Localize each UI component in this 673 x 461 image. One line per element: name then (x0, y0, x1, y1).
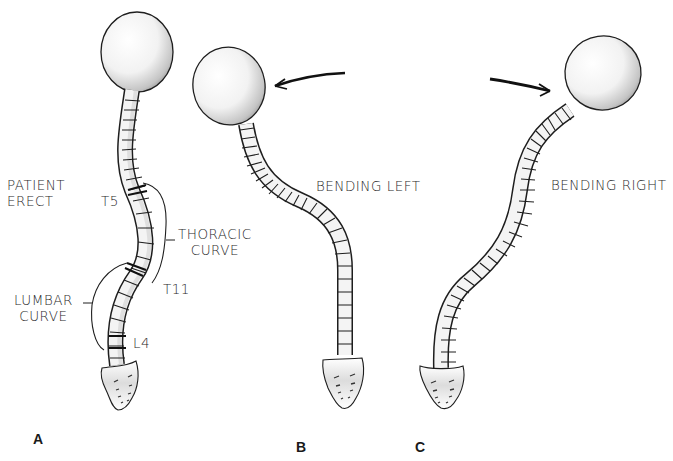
sacrum-c (420, 366, 464, 409)
head-a (101, 12, 173, 92)
label-thoracic-curve: THORACIC CURVE (178, 226, 252, 258)
label-bending-right: BENDING RIGHT (551, 177, 666, 193)
label-thoracic-curve-word: CURVE (178, 242, 252, 258)
label-t11: T11 (163, 281, 190, 297)
label-patient: PATIENT (7, 177, 65, 193)
label-lumbar-curve: LUMBAR CURVE (14, 292, 73, 324)
scoliosis-diagram (0, 0, 673, 461)
head-b (187, 41, 271, 130)
sacrum-a (101, 361, 138, 410)
panel-a-spine (83, 12, 175, 410)
label-lumbar-curve-word: CURVE (14, 308, 73, 324)
label-t5: T5 (101, 193, 119, 209)
label-erect: ERECT (7, 193, 65, 209)
label-patient-erect: PATIENT ERECT (7, 177, 65, 209)
label-lumbar: LUMBAR (14, 292, 73, 308)
panel-label-b: B (296, 439, 306, 455)
panel-c-spine (420, 31, 646, 409)
label-thoracic: THORACIC (178, 226, 252, 242)
arrow-left-icon (275, 73, 345, 86)
panel-label-c: C (415, 439, 425, 455)
spine-b-fill (246, 124, 345, 355)
sacrum-b (323, 358, 364, 409)
panel-label-a: A (33, 431, 43, 447)
panel-b-spine (187, 41, 364, 408)
spine-c-fill (441, 110, 570, 368)
label-l4: L4 (133, 335, 150, 351)
head-c (560, 31, 646, 115)
label-bending-left: BENDING LEFT (316, 178, 421, 194)
